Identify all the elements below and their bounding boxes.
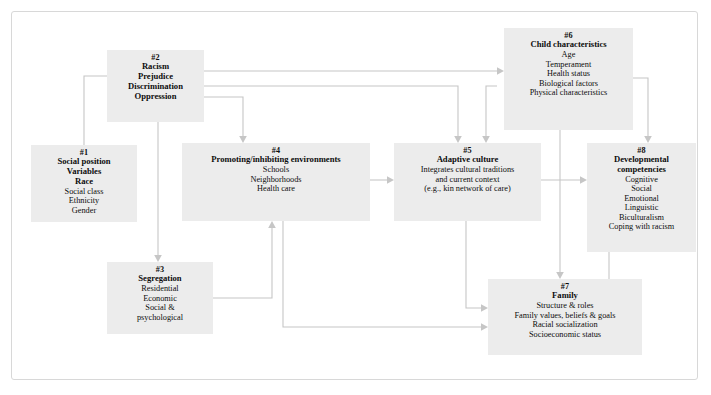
node-developmental-competencies[interactable]: #8 Developmental competencies Cognitive … (587, 143, 696, 252)
node-6-item-2: Health status (506, 69, 631, 78)
node-8-item-4: Biculturalism (589, 213, 694, 222)
node-7-item-1: Family values, beliefs & goals (490, 311, 640, 320)
node-8-item-3: Linguistic (589, 203, 694, 212)
node-5-item-1: and current context (396, 175, 539, 184)
node-5-item-0: Integrates cultural traditions (396, 165, 539, 174)
node-adaptive-culture[interactable]: #5 Adaptive culture Integrates cultural … (394, 143, 541, 221)
node-3-item-3: psychological (109, 313, 211, 322)
node-child-characteristics[interactable]: #6 Child characteristics Age Temperament… (504, 28, 633, 130)
node-8-item-0: Cognitive (589, 175, 694, 184)
node-4-item-0: Schools (184, 165, 368, 174)
node-3-item-1: Economic (109, 294, 211, 303)
node-5-item-2: (e.g., kin network of care) (396, 184, 539, 193)
node-8-item-1: Social (589, 184, 694, 193)
node-1-item-0: Social class (33, 187, 135, 196)
node-3-title: Segregation (109, 274, 211, 284)
node-8-title2: competencies (589, 165, 694, 175)
node-7-item-0: Structure & roles (490, 301, 640, 310)
diagram-canvas: #1 Social position Variables Race Social… (0, 0, 711, 395)
node-6-item-3: Biological factors (506, 79, 631, 88)
node-8-item-2: Emotional (589, 194, 694, 203)
node-family[interactable]: #7 Family Structure & roles Family value… (488, 279, 642, 355)
node-7-item-2: Racial socialization (490, 320, 640, 329)
node-social-position[interactable]: #1 Social position Variables Race Social… (31, 145, 137, 222)
node-1-item-2: Gender (33, 206, 135, 215)
node-6-title: Child characteristics (506, 40, 631, 50)
node-4-item-2: Health care (184, 184, 368, 193)
node-4-item-1: Neighborhoods (184, 175, 368, 184)
node-7-title: Family (490, 291, 640, 301)
node-2-item-2: Oppression (109, 92, 202, 102)
node-8-item-5: Coping with racism (589, 222, 694, 231)
node-6-item-0: Age (506, 50, 631, 59)
node-6-item-4: Physical characteristics (506, 88, 631, 97)
node-1-title3: Race (33, 177, 135, 187)
node-4-title: Promoting/inhibiting environments (184, 155, 368, 165)
node-1-item-1: Ethnicity (33, 196, 135, 205)
node-3-item-0: Residential (109, 284, 211, 293)
node-promoting-inhibiting-environments[interactable]: #4 Promoting/inhibiting environments Sch… (182, 143, 370, 221)
node-5-title: Adaptive culture (396, 155, 539, 165)
node-segregation[interactable]: #3 Segregation Residential Economic Soci… (107, 262, 213, 334)
node-3-item-2: Social & (109, 303, 211, 312)
node-6-item-1: Temperament (506, 60, 631, 69)
node-7-item-3: Socioeconomic status (490, 330, 640, 339)
node-racism[interactable]: #2 Racism Prejudice Discrimination Oppre… (107, 50, 204, 122)
